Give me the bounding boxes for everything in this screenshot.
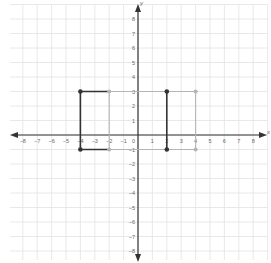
light-point [107, 89, 111, 93]
y-tick-label: −2 [129, 161, 135, 167]
light-point [107, 147, 111, 151]
dark-point [165, 147, 170, 152]
dark-point [165, 89, 170, 94]
y-axis-down-arrow-icon [135, 254, 141, 262]
x-tick-label: 1 [151, 138, 154, 144]
x-axis-left-arrow-icon [10, 132, 18, 138]
y-tick-label: 4 [132, 74, 135, 80]
x-tick-label: −5 [63, 138, 69, 144]
y-tick-label: 7 [132, 31, 135, 37]
y-tick-label: −4 [129, 190, 135, 196]
y-tick-label: 6 [132, 45, 135, 51]
y-tick-label: −5 [129, 205, 135, 211]
dark-point [78, 89, 83, 94]
x-tick-label: −8 [20, 138, 26, 144]
y-tick-label: −8 [129, 248, 135, 254]
origin-label: 0 [132, 138, 135, 144]
graph-svg: xy −8−7−6−5−4−3−2−112345678−8−7−6−5−4−3−… [0, 0, 271, 263]
x-tick-label: −3 [92, 138, 98, 144]
x-tick-label: 8 [252, 138, 255, 144]
y-axis-label: y [139, 0, 144, 6]
dark-point [78, 147, 83, 152]
y-tick-label: 2 [132, 103, 135, 109]
x-tick-label: −6 [48, 138, 54, 144]
y-tick-label: 1 [132, 118, 135, 124]
axes: xy [10, 0, 271, 262]
light-point [194, 147, 198, 151]
y-tick-label: −7 [129, 234, 135, 240]
x-tick-label: 7 [237, 138, 240, 144]
y-tick-label: 5 [132, 60, 135, 66]
y-tick-label: −6 [129, 219, 135, 225]
y-tick-label: 8 [132, 16, 135, 22]
x-tick-label: 6 [223, 138, 226, 144]
x-tick-label: −1 [120, 138, 126, 144]
x-tick-label: 5 [208, 138, 211, 144]
x-tick-label: 3 [180, 138, 183, 144]
coordinate-plane: xy −8−7−6−5−4−3−2−112345678−8−7−6−5−4−3−… [0, 0, 271, 263]
light-point [194, 89, 198, 93]
x-axis-right-arrow-icon [259, 132, 267, 138]
grid-lines [10, 5, 268, 261]
y-tick-label: −3 [129, 176, 135, 182]
x-axis-label: x [266, 129, 271, 135]
x-tick-label: −7 [34, 138, 40, 144]
